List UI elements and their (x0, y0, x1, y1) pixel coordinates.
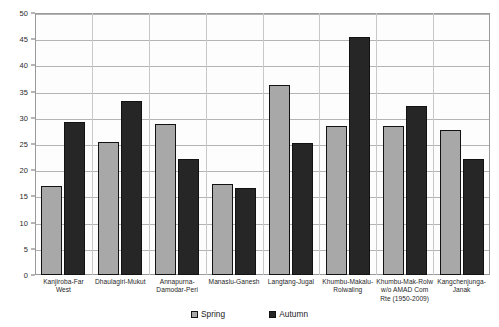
bars-layer (35, 13, 490, 275)
x-axis-label-line: Langtang-Jugal (263, 278, 320, 286)
bar-spring-3 (212, 184, 233, 275)
x-axis-label-line: Khumbu-Mak-Rolw (376, 278, 433, 286)
bar-spring-7 (440, 130, 461, 275)
bar-spring-6 (383, 126, 404, 275)
x-axis-label: Khumbu-Makalu-Rolwaling (319, 278, 376, 295)
bar-group (319, 13, 376, 275)
bar-autumn-0 (64, 122, 85, 275)
x-axis-label: Annapurna-Damodar-Peri (149, 278, 206, 295)
bar-autumn-2 (178, 159, 199, 275)
x-axis-label-line: Kangchenjunga- (433, 278, 490, 286)
bar-group (149, 13, 206, 275)
bar-autumn-7 (463, 159, 484, 275)
bar-autumn-1 (121, 101, 142, 275)
x-axis-labels: Kanjiroba-Far WestDhaulagiri-MukutAnnapu… (35, 278, 490, 308)
y-tick-label-15: 15 (19, 192, 28, 201)
bar-spring-5 (326, 126, 347, 275)
x-axis-label-line: Manaslu-Ganesh (206, 278, 263, 286)
bar-autumn-6 (406, 106, 427, 275)
x-axis-label-line: Janak (433, 286, 490, 294)
y-tick-label-45: 45 (19, 35, 28, 44)
x-axis-label: Dhaulagiri-Mukut (92, 278, 149, 286)
legend-swatch-spring-icon (191, 311, 198, 318)
bar-group (433, 13, 490, 275)
y-tick-label-10: 10 (19, 218, 28, 227)
y-tick-label-30: 30 (19, 113, 28, 122)
bar-spring-0 (41, 186, 62, 275)
bar-group (35, 13, 92, 275)
y-tick-label-25: 25 (19, 140, 28, 149)
legend-label-spring: Spring (201, 309, 225, 319)
x-axis-label-line: Annapurna- (149, 278, 206, 286)
legend-item-spring[interactable]: Spring (191, 309, 225, 319)
y-tick-label-35: 35 (19, 87, 28, 96)
x-axis-label: Manaslu-Ganesh (206, 278, 263, 286)
x-axis-label: Langtang-Jugal (263, 278, 320, 286)
x-axis-label-line: w/o AMAD Com (376, 286, 433, 294)
x-axis-label-line: Rolwaling (319, 286, 376, 294)
bar-spring-1 (98, 142, 119, 275)
bar-autumn-3 (235, 188, 256, 275)
x-axis-label-line: Rte (1950-2009) (376, 295, 433, 303)
x-axis-label-line: Khumbu-Makalu- (319, 278, 376, 286)
legend-swatch-autumn-icon (269, 311, 276, 318)
chart-legend: SpringAutumn (0, 309, 499, 319)
bar-autumn-4 (292, 143, 313, 275)
y-tick-label-50: 50 (19, 9, 28, 18)
bar-group (263, 13, 320, 275)
bar-spring-4 (269, 85, 290, 275)
y-tick-label-20: 20 (19, 166, 28, 175)
legend-label-autumn: Autumn (279, 309, 308, 319)
x-axis-label: Khumbu-Mak-Rolww/o AMAD ComRte (1950-200… (376, 278, 433, 303)
x-axis-label-line: Dhaulagiri-Mukut (92, 278, 149, 286)
bar-chart: 05101520253035404550 Kanjiroba-Far WestD… (0, 0, 499, 327)
x-axis-label: Kanjiroba-Far West (35, 278, 92, 295)
bar-autumn-5 (349, 37, 370, 275)
bar-group (92, 13, 149, 275)
x-axis-label-line: Damodar-Peri (149, 286, 206, 294)
bar-group (376, 13, 433, 275)
y-tick-label-5: 5 (24, 244, 28, 253)
y-axis: 05101520253035404550 (0, 13, 35, 275)
x-axis-label-line: Kanjiroba-Far West (35, 278, 92, 295)
bar-group (206, 13, 263, 275)
y-tick-label-40: 40 (19, 61, 28, 70)
legend-item-autumn[interactable]: Autumn (269, 309, 308, 319)
bar-spring-2 (155, 124, 176, 275)
y-tick-label-0: 0 (24, 271, 28, 280)
x-axis-label: Kangchenjunga-Janak (433, 278, 490, 295)
